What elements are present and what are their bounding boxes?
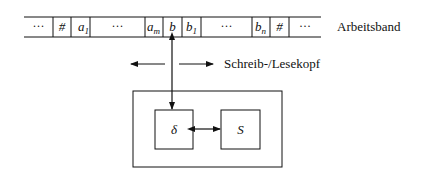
tape-cells: ··· # a1 ··· am b b1 ··· bn # ··· <box>33 19 312 36</box>
tape-cell-blank: # <box>276 19 283 34</box>
tape-cell-dots: ··· <box>221 19 233 33</box>
tape-cell-am: am <box>147 19 161 36</box>
tape-cell-bn: bn <box>255 19 267 36</box>
tape-cell-dots: ··· <box>299 19 311 33</box>
tape-cell-dots: ··· <box>112 19 124 33</box>
tape-cell-blank: # <box>59 19 66 34</box>
tape-label: Arbeitsband <box>337 19 401 34</box>
tape-cell-dots: ··· <box>33 19 45 33</box>
tape-cell-head-b: b <box>169 19 176 34</box>
turing-machine-diagram: ··· # a1 ··· am b b1 ··· bn # ··· Arbeit… <box>0 0 424 185</box>
tape-cell-a1: a1 <box>78 19 89 36</box>
tape-cell-b1: b1 <box>186 19 197 36</box>
head-label: Schreib-/Lesekopf <box>224 56 321 71</box>
transition-function-label: δ <box>171 122 178 137</box>
state-label: S <box>237 122 244 137</box>
